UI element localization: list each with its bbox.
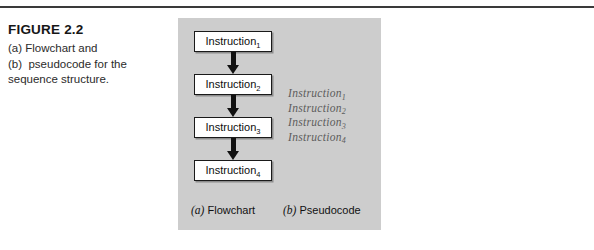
flowchart-node-label: Instruction3 (206, 122, 261, 133)
arrow-shaft (231, 138, 236, 152)
flowchart-node-label: Instruction1 (206, 36, 261, 47)
figure-caption-line-3: sequence structure. (8, 72, 160, 88)
pseudocode-line: Instruction1 (288, 86, 376, 101)
figure-panel: Instruction1 Instruction2 Instruction3 I… (178, 18, 381, 230)
subfigure-label-flowchart: (a) Flowchart (191, 204, 255, 216)
flowchart-node: Instruction3 (194, 117, 272, 138)
figure-number: FIGURE 2.2 (8, 22, 160, 37)
pseudocode-line: Instruction2 (288, 101, 376, 116)
flowchart-diagram: Instruction1 Instruction2 Instruction3 I… (194, 31, 276, 181)
subfigure-label-pseudocode: (b) Pseudocode (283, 204, 361, 216)
figure-caption-block: FIGURE 2.2 (a) Flowchart and (b) pseudoc… (8, 22, 160, 88)
flowchart-node-label: Instruction4 (206, 165, 261, 176)
flowchart-arrow-down-icon (194, 52, 272, 74)
pseudocode-listing: Instruction1 Instruction2 Instruction3 I… (288, 86, 376, 144)
flowchart-node: Instruction4 (194, 160, 272, 181)
arrow-head (227, 108, 239, 117)
flowchart-node-label: Instruction2 (206, 79, 261, 90)
arrow-head (227, 65, 239, 74)
flowchart-node: Instruction2 (194, 74, 272, 95)
arrow-shaft (231, 95, 236, 109)
flowchart-arrow-down-icon (194, 95, 272, 117)
subfigure-text-pseudocode: Pseudocode (296, 204, 360, 216)
arrow-head (227, 151, 239, 160)
figure-caption-line-2: (b) pseudocode for the (8, 57, 160, 73)
arrow-shaft (231, 52, 236, 66)
subfigure-text-flowchart: Flowchart (204, 204, 255, 216)
pseudocode-line: Instruction3 (288, 115, 376, 130)
figure-caption-line-1: (a) Flowchart and (8, 41, 160, 57)
pseudocode-line: Instruction4 (288, 130, 376, 145)
flowchart-arrow-down-icon (194, 138, 272, 160)
flowchart-node: Instruction1 (194, 31, 272, 52)
subfigure-tag-a: (a) (191, 204, 204, 216)
header-rule (0, 6, 594, 8)
subfigure-tag-b: (b) (283, 204, 296, 216)
